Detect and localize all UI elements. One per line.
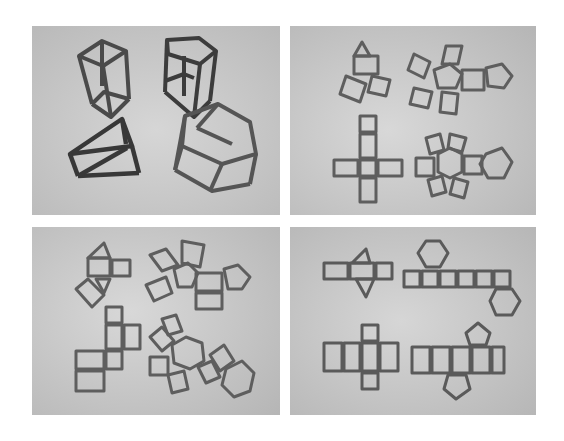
prism-models-illustration [32,26,280,215]
photo-prism-nets-2 [32,227,280,415]
photo-prism-nets-1 [290,26,536,215]
photo-prism-models [32,26,280,215]
prism-nets-2-illustration [32,227,280,415]
photo-prism-nets-3 [290,227,536,415]
prism-nets-1-illustration [290,26,536,215]
prism-nets-3-illustration [290,227,536,415]
